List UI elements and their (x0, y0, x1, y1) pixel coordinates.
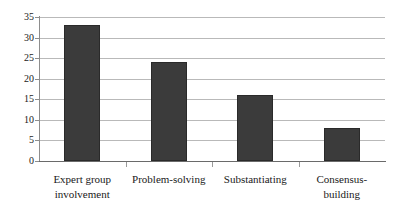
y-axis-tick-label: 30 (4, 33, 34, 43)
bar (324, 128, 360, 161)
bar (237, 95, 273, 161)
bar (64, 25, 100, 161)
y-axis-line (39, 16, 40, 162)
plot-area (39, 17, 385, 161)
x-axis-category-label-line: Consensus-building (299, 172, 386, 202)
bar-chart: 35302520151050 Expert groupinvolvementPr… (0, 0, 400, 222)
x-axis-tick-mark (212, 162, 213, 167)
x-axis-category-label: Consensus-building (299, 172, 386, 202)
y-axis-tick-label: 0 (4, 156, 34, 166)
x-axis-category-label: Expert groupinvolvement (39, 172, 126, 202)
y-axis-tick-label: 25 (4, 53, 34, 63)
x-axis-tick-mark (126, 162, 127, 167)
x-axis-tick-mark (299, 162, 300, 167)
x-axis-category-label-line: involvement (39, 187, 126, 202)
y-axis-tick-label: 35 (4, 12, 34, 22)
y-axis-labels: 35302520151050 (0, 0, 34, 222)
x-axis-category-label-line: Expert group (39, 172, 126, 187)
x-axis-category-label: Substantiating (212, 172, 299, 187)
x-axis-category-label-line: Problem-solving (126, 172, 213, 187)
gridline (39, 17, 385, 18)
y-axis-tick-label: 5 (4, 135, 34, 145)
y-axis-tick-label: 15 (4, 94, 34, 104)
bar (151, 62, 187, 161)
x-axis-category-label-line: Substantiating (212, 172, 299, 187)
x-axis-labels: Expert groupinvolvementProblem-solvingSu… (39, 172, 385, 218)
x-axis-category-label: Problem-solving (126, 172, 213, 187)
y-axis-tick-label: 10 (4, 115, 34, 125)
y-axis-tick-label: 20 (4, 74, 34, 84)
